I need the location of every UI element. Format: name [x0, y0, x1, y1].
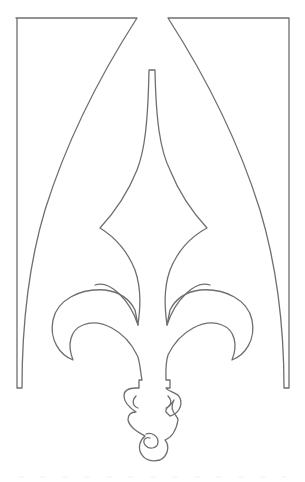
base-scroll-left [133, 396, 138, 408]
base-scroll-curl [144, 433, 158, 448]
fleur-de-lis-center [52, 70, 253, 461]
base-scroll-right [166, 396, 171, 408]
illustration-canvas [0, 0, 305, 482]
faint-footer-marks [18, 476, 287, 478]
line-drawing [0, 0, 305, 482]
